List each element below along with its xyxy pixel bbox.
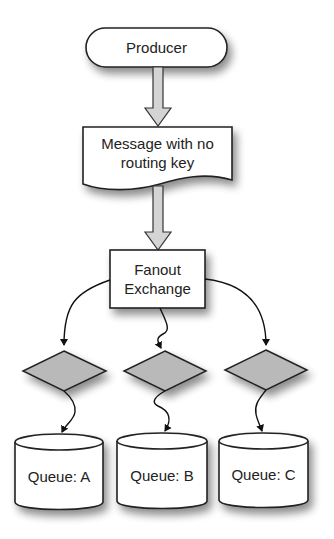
fanout-exchange-diagram bbox=[0, 0, 334, 539]
queue-a-cylinder bbox=[15, 434, 103, 510]
binding-b-decision bbox=[124, 351, 206, 391]
block-arrow-message-to-exchange bbox=[145, 186, 171, 250]
queue-b-cylinder bbox=[117, 433, 207, 509]
queue-c-cylinder bbox=[219, 433, 308, 508]
edge-exchange-to-binding-c bbox=[205, 279, 266, 345]
binding-a-decision bbox=[23, 351, 106, 391]
edge-binding-c-to-queue-c bbox=[256, 390, 266, 431]
edge-exchange-to-binding-b bbox=[158, 308, 167, 348]
edge-binding-b-to-queue-b bbox=[154, 391, 169, 431]
binding-c-decision bbox=[225, 350, 307, 390]
edge-binding-a-to-queue-a bbox=[62, 391, 75, 432]
exchange-node bbox=[110, 250, 205, 308]
block-arrow-producer-to-message bbox=[145, 67, 171, 126]
edge-exchange-to-binding-a bbox=[64, 280, 110, 345]
message-node bbox=[83, 127, 232, 190]
producer-node bbox=[86, 28, 227, 67]
